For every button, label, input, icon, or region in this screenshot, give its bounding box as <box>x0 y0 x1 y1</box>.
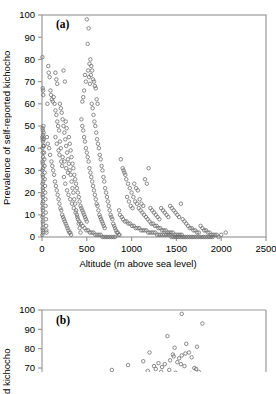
data-point <box>58 140 62 144</box>
data-point <box>148 351 152 355</box>
data-point <box>81 211 85 215</box>
panel-b-data-points <box>110 312 204 372</box>
data-point <box>88 82 92 86</box>
data-point <box>100 220 104 224</box>
data-point <box>52 173 56 177</box>
data-point <box>72 206 76 210</box>
panel-a-y-tick-label: 100 <box>19 9 35 20</box>
data-point <box>60 209 64 213</box>
data-point <box>44 211 48 215</box>
data-point <box>44 198 48 202</box>
data-point <box>86 42 90 46</box>
data-point <box>110 368 114 372</box>
data-point <box>69 149 73 153</box>
data-point <box>74 182 78 186</box>
panel-a-y-tick-label: 80 <box>24 54 35 65</box>
data-point <box>125 195 128 199</box>
data-point <box>62 217 65 221</box>
data-point <box>44 224 48 228</box>
data-point <box>89 58 93 62</box>
data-point <box>82 135 86 139</box>
data-point <box>71 162 75 166</box>
panel-a-y-tick-label: 20 <box>24 187 35 198</box>
data-point <box>72 166 76 170</box>
data-point <box>98 213 102 217</box>
data-point <box>86 155 90 159</box>
data-point <box>154 367 158 371</box>
panel-a-x-tick-label: 1000 <box>121 243 142 254</box>
data-point <box>55 189 59 193</box>
panel-a-x-axis-label: Altitude (m above sea level) <box>0 258 276 269</box>
data-point <box>122 169 126 173</box>
data-point <box>67 193 71 197</box>
data-point <box>58 202 62 206</box>
data-point <box>67 162 71 166</box>
data-point <box>68 198 72 202</box>
data-point <box>57 129 61 133</box>
data-point <box>83 140 87 144</box>
data-point <box>70 180 74 184</box>
panel-a-y-tick-label: 0 <box>30 231 35 242</box>
panel-a-frame <box>42 15 266 237</box>
data-point <box>60 164 64 168</box>
data-point <box>147 166 151 170</box>
data-point <box>95 202 99 206</box>
data-point <box>49 89 53 93</box>
data-point <box>47 64 51 68</box>
data-point <box>103 186 107 190</box>
data-point <box>88 166 92 170</box>
data-point <box>55 120 59 124</box>
data-point <box>70 155 74 159</box>
data-point <box>179 202 183 206</box>
data-point <box>82 89 86 93</box>
data-point <box>60 213 64 217</box>
data-point <box>190 356 194 360</box>
data-point <box>108 209 112 213</box>
panel-b-y-tick-label: 70 <box>24 362 35 372</box>
data-point <box>102 175 106 179</box>
data-point <box>43 171 47 175</box>
data-point <box>50 160 54 164</box>
data-point <box>64 120 68 124</box>
data-point <box>81 95 85 99</box>
data-point <box>96 102 100 106</box>
data-point <box>48 75 52 79</box>
panel-a-y-tick-label: 50 <box>24 120 35 131</box>
data-point <box>96 142 100 146</box>
data-point <box>84 217 88 221</box>
data-point <box>111 217 115 221</box>
data-point <box>103 226 107 230</box>
data-point <box>76 215 80 219</box>
data-point <box>60 111 64 115</box>
data-point <box>124 178 128 182</box>
data-point <box>113 226 117 230</box>
data-point <box>101 169 105 173</box>
data-point <box>47 146 51 150</box>
data-point <box>57 149 61 153</box>
data-point <box>92 80 96 84</box>
data-point <box>62 69 66 73</box>
data-point <box>66 226 70 230</box>
data-point <box>102 224 106 228</box>
panel-a-data-points <box>41 18 228 239</box>
data-point <box>54 135 58 139</box>
data-point <box>99 158 103 162</box>
data-point <box>64 166 68 170</box>
data-point <box>91 184 95 188</box>
data-point <box>84 80 88 84</box>
data-point <box>57 198 61 202</box>
data-point <box>63 131 67 135</box>
data-point <box>64 138 68 142</box>
data-point <box>185 342 189 346</box>
panel-a-y-tick-label: 10 <box>24 209 35 220</box>
data-point <box>81 124 85 128</box>
data-point <box>46 102 50 106</box>
data-point <box>100 164 104 168</box>
data-point <box>45 231 49 235</box>
data-point <box>80 118 84 122</box>
panel-a-x-tick-label: 1500 <box>166 243 187 254</box>
data-point <box>95 98 99 102</box>
data-point <box>55 142 59 146</box>
data-point <box>44 204 48 208</box>
data-point <box>132 195 136 199</box>
